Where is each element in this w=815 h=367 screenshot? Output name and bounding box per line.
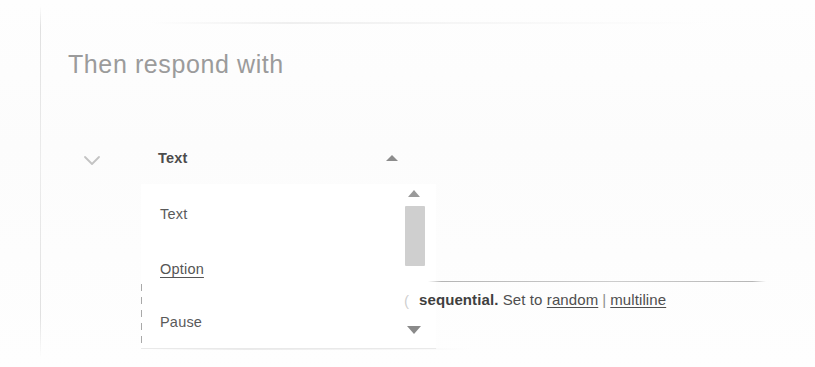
scroll-down-arrow-icon[interactable] [407, 326, 421, 334]
chevron-down-icon[interactable] [80, 148, 104, 172]
helper-separator: | [598, 291, 610, 308]
page-title: Then respond with [68, 50, 284, 79]
scroll-up-arrow-icon[interactable] [408, 190, 420, 197]
select-option-list[interactable]: Text Option Pause [141, 184, 436, 349]
select-option-option[interactable]: Option [160, 261, 204, 277]
helper-static-text: Set to [498, 291, 546, 308]
select-option-text[interactable]: Text [160, 206, 187, 222]
select-option-pause[interactable]: Pause [160, 314, 202, 330]
option-list-scrollbar[interactable] [404, 188, 427, 346]
helper-lead-word: sequential. [419, 291, 498, 308]
helper-link-random[interactable]: random [547, 291, 598, 308]
helper-clipped-prefix: ( [404, 292, 409, 309]
response-type-select[interactable]: Text [158, 149, 410, 175]
left-margin-rule [40, 6, 41, 358]
helper-divider [428, 281, 766, 282]
helper-link-multiline[interactable]: multiline [610, 291, 666, 308]
helper-text: sequential. Set to random|multiline [419, 291, 666, 308]
scrollbar-thumb[interactable] [405, 206, 425, 266]
scan-artifact-top [150, 22, 710, 24]
screenshot-root: Then respond with Text Text Option Pause… [0, 0, 815, 367]
select-selected-value: Text [158, 150, 188, 166]
caret-up-icon[interactable] [386, 155, 398, 161]
